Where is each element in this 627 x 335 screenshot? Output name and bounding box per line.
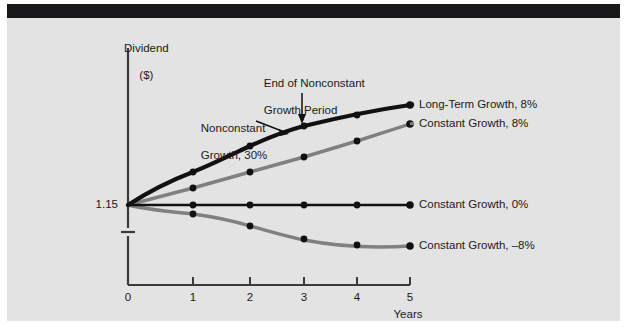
- series-label-constant-growth-0: Constant Growth, 0%: [419, 198, 528, 212]
- data-point: [247, 223, 254, 230]
- series-label-constant-growth-8: Constant Growth, 8%: [419, 117, 528, 131]
- data-point: [406, 242, 414, 250]
- end-period-annotation-line1: End of Nonconstant: [264, 77, 365, 89]
- x-tick-label-2: 2: [238, 291, 262, 305]
- data-point: [301, 154, 308, 161]
- data-point: [406, 201, 414, 209]
- leader-long-term-growth: [410, 104, 414, 105]
- y-tick-label-base: 1.15: [78, 198, 118, 212]
- data-point: [247, 202, 254, 209]
- leader-constant-growth-8: [410, 123, 414, 124]
- chart-figure: Dividend ($) 1.15 0 1 2 3 4 5 Years Nonc…: [0, 0, 627, 335]
- data-point: [190, 185, 197, 192]
- data-point: [301, 236, 308, 243]
- y-axis-title: Dividend ($): [105, 28, 175, 96]
- end-period-annotation-line2: Growth Period: [264, 104, 338, 116]
- data-point: [354, 242, 361, 249]
- x-axis-title: Years: [383, 308, 433, 322]
- x-tick-label-1: 1: [181, 291, 205, 305]
- nonconstant-growth-annotation-line2: Growth, 30%: [201, 149, 267, 161]
- data-point: [190, 211, 197, 218]
- series-label-constant-growth-neg8: Constant Growth, –8%: [419, 239, 535, 253]
- data-point: [354, 202, 361, 209]
- y-axis-title-line2: ($): [139, 69, 153, 81]
- series-line-constant-growth-neg8: [128, 205, 410, 247]
- data-point: [190, 202, 197, 209]
- y-axis-title-line1: Dividend: [124, 42, 169, 54]
- data-point: [301, 202, 308, 209]
- x-tick-label-3: 3: [292, 291, 316, 305]
- x-tick-label-5: 5: [398, 291, 422, 305]
- x-tick-label-0: 0: [116, 291, 140, 305]
- data-point: [354, 138, 361, 145]
- series-label-long-term-growth-8: Long-Term Growth, 8%: [419, 98, 537, 112]
- end-of-nonconstant-growth-annotation: End of Nonconstant Growth Period: [251, 63, 365, 131]
- x-tick-label-4: 4: [345, 291, 369, 305]
- chart-plot-svg: [0, 0, 627, 335]
